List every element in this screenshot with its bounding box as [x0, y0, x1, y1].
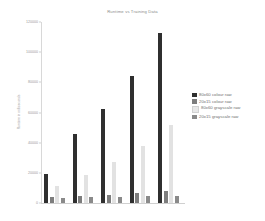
bar-group	[70, 22, 99, 203]
legend-item[interactable]: 80x60 grayscale raw	[192, 105, 264, 112]
bar	[164, 191, 168, 203]
legend-swatch-icon	[192, 93, 197, 98]
legend-item-label: 20x15 colour raw	[199, 99, 232, 104]
plot-area: 020000400006000080000100000120000	[41, 22, 184, 203]
bar	[175, 196, 179, 203]
legend-swatch-icon	[192, 99, 197, 104]
legend-item[interactable]: 80x60 colour raw	[192, 92, 264, 97]
legend-item[interactable]: 20x15 colour raw	[192, 99, 264, 104]
bar	[55, 186, 59, 203]
bar	[169, 125, 173, 203]
legend-item[interactable]: 20x15 grayscale raw	[192, 114, 264, 119]
bar-group	[41, 22, 70, 203]
x-axis-line	[41, 203, 185, 204]
bar-group	[127, 22, 156, 203]
bar-group	[155, 22, 184, 203]
legend-item-label: 20x15 grayscale raw	[199, 114, 238, 119]
bar	[73, 134, 77, 203]
bar	[61, 198, 65, 203]
bar	[78, 196, 82, 203]
bar	[50, 197, 54, 203]
legend-swatch-icon	[192, 115, 197, 120]
bar	[89, 197, 93, 203]
legend-item-label: 80x60 grayscale raw	[201, 105, 240, 110]
bar	[135, 193, 139, 203]
bar	[112, 162, 116, 203]
bar	[118, 197, 122, 203]
bar	[158, 33, 162, 203]
y-axis-label: Runtime in milliseconds	[17, 95, 21, 130]
bar	[107, 195, 111, 203]
legend-swatch-icon	[192, 106, 199, 113]
legend-item-label: 80x60 colour raw	[199, 92, 232, 97]
bar	[101, 109, 105, 203]
bar	[44, 174, 48, 203]
chart-container: Runtime vs Training Data Runtime in mill…	[0, 0, 265, 221]
bar	[141, 146, 145, 203]
bar	[84, 175, 88, 203]
bar	[146, 196, 150, 203]
chart-title: Runtime vs Training Data	[0, 9, 265, 14]
chart-legend: 80x60 colour raw20x15 colour raw80x60 gr…	[192, 92, 264, 121]
bar	[130, 76, 134, 203]
bar-group	[98, 22, 127, 203]
